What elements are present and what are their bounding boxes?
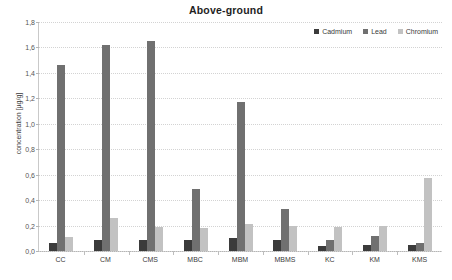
bar-lead-mbc[interactable]: [192, 189, 200, 251]
x-axis-label-cm: CM: [83, 256, 128, 263]
bar-cadmium-km[interactable]: [363, 245, 371, 251]
bar-cadmium-mbc[interactable]: [184, 240, 192, 251]
bar-groups: [39, 22, 442, 251]
bar-group-mbc: [173, 22, 218, 251]
bar-chromium-kms[interactable]: [424, 178, 432, 251]
x-tick-mark: [129, 251, 130, 255]
gridline: [39, 251, 442, 252]
x-axis-label-mbm: MBM: [218, 256, 263, 263]
y-tick-label: 1,0: [25, 120, 35, 127]
plot-area: 0,00,20,40,60,81,01,21,41,61,8: [38, 22, 442, 252]
x-axis-label-kms: KMS: [397, 256, 442, 263]
bar-chromium-km[interactable]: [379, 226, 387, 251]
bar-group-cms: [129, 22, 174, 251]
x-tick-mark: [84, 251, 85, 255]
y-tick-label: 1,8: [25, 19, 35, 26]
bar-group-cc: [39, 22, 84, 251]
bar-lead-km[interactable]: [371, 236, 379, 251]
bar-lead-cm[interactable]: [102, 45, 110, 251]
y-tick-label: 0,2: [25, 222, 35, 229]
y-tick-label: 1,6: [25, 44, 35, 51]
x-tick-mark: [352, 251, 353, 255]
bar-lead-mbm[interactable]: [237, 102, 245, 251]
y-axis-title: concentration [µg/g]: [15, 59, 22, 189]
x-axis-label-km: KM: [352, 256, 397, 263]
bar-lead-mbms[interactable]: [281, 209, 289, 251]
bar-cadmium-kms[interactable]: [408, 245, 416, 251]
chart-title: Above-ground: [0, 4, 452, 16]
x-axis-label-cc: CC: [38, 256, 83, 263]
x-axis-label-mbms: MBMS: [262, 256, 307, 263]
y-tick-label: 0,6: [25, 171, 35, 178]
bar-chromium-kc[interactable]: [334, 227, 342, 251]
x-axis-label-mbc: MBC: [173, 256, 218, 263]
bar-cadmium-kc[interactable]: [318, 246, 326, 251]
x-tick-mark: [173, 251, 174, 255]
y-tick-label: 0,8: [25, 146, 35, 153]
x-tick-mark: [397, 251, 398, 255]
y-tick-label: 1,2: [25, 95, 35, 102]
bar-chart: Above-ground CadmiumLeadChromium concent…: [0, 0, 452, 280]
bar-group-mbms: [263, 22, 308, 251]
bar-group-mbm: [218, 22, 263, 251]
bar-lead-cms[interactable]: [147, 41, 155, 251]
bar-cadmium-mbm[interactable]: [229, 238, 237, 251]
bar-group-kc: [308, 22, 353, 251]
bar-group-cm: [84, 22, 129, 251]
bar-chromium-mbc[interactable]: [200, 228, 208, 251]
x-axis-label-kc: KC: [307, 256, 352, 263]
bar-lead-kc[interactable]: [326, 240, 334, 251]
y-tick-mark: [36, 251, 39, 252]
bar-lead-kms[interactable]: [416, 243, 424, 251]
y-tick-label: 1,4: [25, 69, 35, 76]
bar-cadmium-cms[interactable]: [139, 240, 147, 251]
bar-cadmium-cc[interactable]: [49, 243, 57, 251]
x-tick-mark: [308, 251, 309, 255]
x-axis-label-cms: CMS: [128, 256, 173, 263]
bar-cadmium-cm[interactable]: [94, 240, 102, 251]
x-tick-mark: [218, 251, 219, 255]
bar-chromium-mbm[interactable]: [245, 224, 253, 251]
bar-chromium-cms[interactable]: [155, 227, 163, 251]
bar-chromium-cc[interactable]: [65, 237, 73, 251]
bar-cadmium-mbms[interactable]: [273, 240, 281, 251]
bar-group-km: [352, 22, 397, 251]
x-axis-labels: CCCMCMSMBCMBMMBMSKCKMKMS: [38, 256, 442, 263]
y-tick-label: 0,0: [25, 248, 35, 255]
x-tick-mark: [263, 251, 264, 255]
bar-chromium-cm[interactable]: [110, 218, 118, 251]
bar-group-kms: [397, 22, 442, 251]
bar-lead-cc[interactable]: [57, 65, 65, 251]
y-tick-label: 0,4: [25, 197, 35, 204]
bar-chromium-mbms[interactable]: [289, 226, 297, 251]
